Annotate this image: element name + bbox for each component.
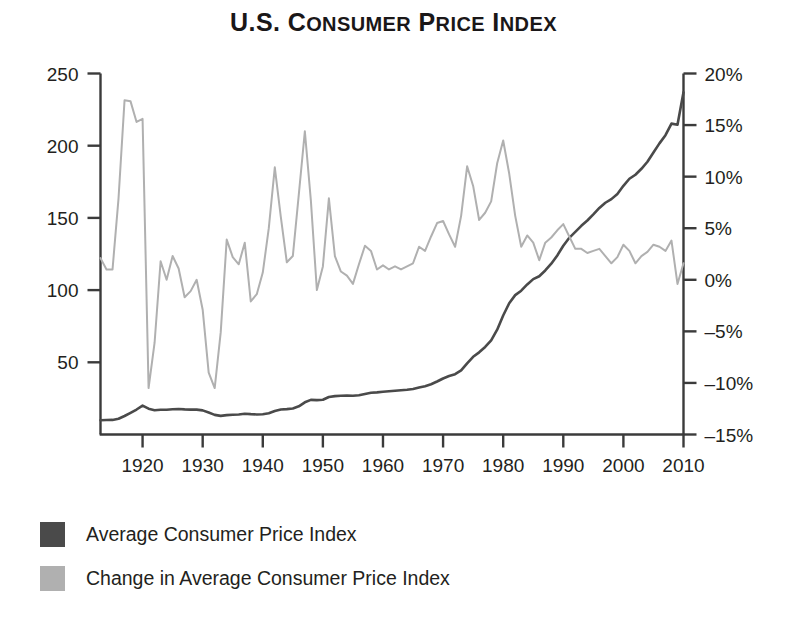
series-line <box>101 92 684 420</box>
bottom-tick-label: 1970 <box>422 455 464 473</box>
bottom-tick-label: 1990 <box>542 455 584 473</box>
left-tick-label: 200 <box>47 136 79 157</box>
right-tick-label: –15% <box>705 425 754 446</box>
chart-title: U.S. CONSUMER PRICE INDEX <box>0 8 787 37</box>
legend-item-cpi-change: Change in Average Consumer Price Index <box>40 556 740 600</box>
right-tick-label: 20% <box>705 64 743 85</box>
bottom-tick-label: 1980 <box>482 455 524 473</box>
right-tick-label: –5% <box>705 321 743 342</box>
right-tick-label: 5% <box>705 218 733 239</box>
legend-label-cpi: Average Consumer Price Index <box>86 523 357 546</box>
bottom-axis-ticks: 1920193019401950196019701980199020002010 <box>121 435 704 473</box>
left-tick-label: 250 <box>47 64 79 85</box>
title-i-cap: I <box>485 8 500 36</box>
right-tick-label: 15% <box>705 115 743 136</box>
left-axis-ticks: 25020015010050 <box>47 64 101 374</box>
chart-svg: 25020015010050 20%15%10%5%0%–5%–10%–15% … <box>0 52 787 472</box>
title-index: NDEX <box>500 13 557 35</box>
axis-lines <box>100 74 685 435</box>
right-tick-label: –10% <box>705 373 754 394</box>
right-tick-label: 10% <box>705 167 743 188</box>
chart-legend: Average Consumer Price Index Change in A… <box>40 512 740 600</box>
bottom-tick-label: 1960 <box>362 455 404 473</box>
right-tick-label: 0% <box>705 270 733 291</box>
legend-label-cpi-change: Change in Average Consumer Price Index <box>86 567 450 590</box>
legend-swatch-cpi <box>40 522 65 547</box>
bottom-tick-label: 1950 <box>302 455 344 473</box>
bottom-tick-label: 1920 <box>121 455 163 473</box>
series-line <box>101 100 684 388</box>
title-consumer: ONSUMER <box>306 13 411 35</box>
left-tick-label: 150 <box>47 208 79 229</box>
title-price: RICE <box>436 13 485 35</box>
bottom-tick-label: 1930 <box>182 455 224 473</box>
legend-swatch-cpi-change <box>40 566 65 591</box>
bottom-tick-label: 2000 <box>602 455 644 473</box>
bottom-tick-label: 2010 <box>662 455 704 473</box>
left-tick-label: 50 <box>57 352 78 373</box>
cpi-chart: U.S. CONSUMER PRICE INDEX 25020015010050… <box>0 0 787 627</box>
title-c-cap: C <box>288 8 306 36</box>
right-axis-ticks: 20%15%10%5%0%–5%–10%–15% <box>684 64 754 446</box>
left-tick-label: 100 <box>47 280 79 301</box>
title-part-us: U.S. <box>230 8 288 36</box>
legend-item-cpi: Average Consumer Price Index <box>40 512 740 556</box>
bottom-tick-label: 1940 <box>242 455 284 473</box>
title-p-cap: P <box>411 8 435 36</box>
data-series <box>101 92 684 420</box>
plot-area: 25020015010050 20%15%10%5%0%–5%–10%–15% … <box>0 52 787 472</box>
